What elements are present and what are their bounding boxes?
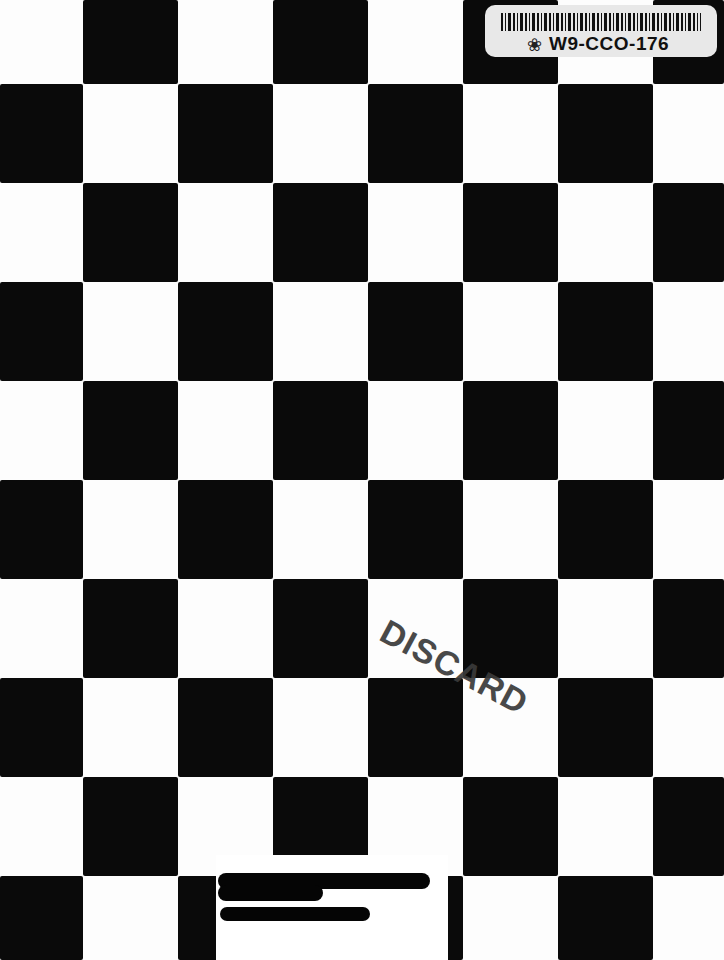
barcode-label: ❀ W9-CCO-176 (485, 5, 717, 57)
checker-square (368, 678, 463, 777)
checker-square (653, 579, 724, 678)
redaction-mark (218, 885, 323, 901)
checker-square (83, 579, 178, 678)
checker-square (463, 381, 558, 480)
checker-square (273, 381, 368, 480)
checker-square (653, 381, 724, 480)
checker-square (0, 480, 83, 579)
checker-square (178, 480, 273, 579)
checker-square (558, 84, 653, 183)
checker-square (558, 678, 653, 777)
checker-square (653, 183, 724, 282)
checker-square (273, 0, 368, 84)
checker-square (178, 84, 273, 183)
checker-square (178, 282, 273, 381)
leaf-icon: ❀ (527, 34, 542, 56)
checker-square (558, 480, 653, 579)
checker-square (0, 84, 83, 183)
checker-square (83, 381, 178, 480)
checker-square (83, 0, 178, 84)
barcode (501, 13, 701, 31)
redaction-mark (220, 907, 370, 921)
barcode-number: W9-CCO-176 (549, 33, 669, 55)
checker-square (368, 480, 463, 579)
checker-square (368, 84, 463, 183)
checker-square (0, 876, 83, 960)
checker-square (273, 183, 368, 282)
checker-square (83, 777, 178, 876)
library-sticker (216, 855, 448, 960)
checker-square (368, 282, 463, 381)
checker-square (558, 876, 653, 960)
checker-square (463, 777, 558, 876)
checker-square (83, 183, 178, 282)
checker-square (558, 282, 653, 381)
checker-square (653, 777, 724, 876)
checker-square (463, 183, 558, 282)
checker-square (0, 678, 83, 777)
checkerboard-cover (0, 0, 724, 960)
checker-square (178, 678, 273, 777)
checker-square (0, 282, 83, 381)
checker-square (273, 579, 368, 678)
